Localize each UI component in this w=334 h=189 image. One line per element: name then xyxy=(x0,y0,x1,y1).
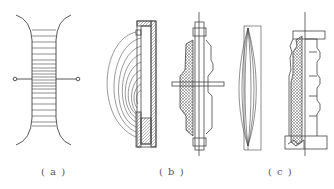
caption-b: ( b ) xyxy=(159,166,185,177)
field-lines xyxy=(32,30,56,126)
left-terminal-icon xyxy=(13,77,17,81)
caption-a: ( a ) xyxy=(41,166,66,177)
right-terminal-icon xyxy=(76,77,80,81)
panel-a-drawing xyxy=(13,15,80,145)
diagram-canvas xyxy=(0,0,334,189)
caption-c: ( c ) xyxy=(268,166,293,177)
panel-b-electrode xyxy=(107,21,156,147)
panel-b-bushing xyxy=(172,12,224,156)
panel-c-foils xyxy=(239,26,261,150)
right-electrode xyxy=(56,15,71,145)
left-electrode xyxy=(16,15,32,145)
technical-figure: ( a ) ( b ) ( c ) xyxy=(0,0,334,189)
panel-c-insulator xyxy=(285,12,327,156)
